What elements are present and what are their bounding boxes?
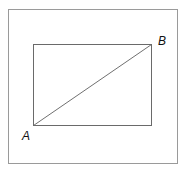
diagonal-ab	[34, 45, 152, 126]
point-label-a: A	[21, 129, 30, 143]
point-label-b: B	[158, 34, 166, 48]
diagram-canvas: B A	[0, 0, 181, 170]
